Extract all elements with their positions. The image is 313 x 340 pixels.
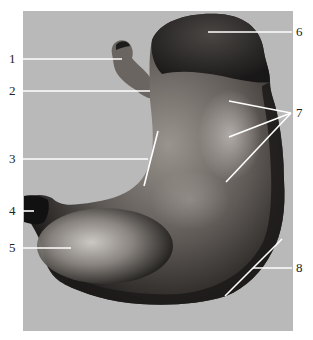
- antrum: [37, 208, 173, 284]
- label-7: 7: [296, 106, 303, 119]
- label-6: 6: [296, 25, 303, 38]
- anatomy-figure: 1 2 3 4 5 6 7 8: [0, 0, 313, 340]
- label-4: 4: [9, 204, 16, 217]
- pylorus: [24, 195, 49, 224]
- label-8: 8: [296, 261, 303, 274]
- label-5: 5: [9, 241, 16, 254]
- stomach-specimen: [0, 0, 313, 340]
- label-1: 1: [9, 52, 16, 65]
- label-3: 3: [9, 152, 16, 165]
- label-2: 2: [9, 84, 16, 97]
- esophagus: [112, 40, 156, 98]
